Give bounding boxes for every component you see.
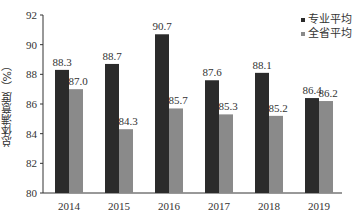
y-tick-label: 88 bbox=[26, 68, 38, 80]
bar bbox=[219, 114, 233, 193]
legend-label: 专业平均 bbox=[308, 13, 352, 27]
bar-value-label: 88.1 bbox=[252, 59, 271, 71]
bar bbox=[305, 98, 319, 193]
bar bbox=[319, 101, 333, 193]
x-tick-labels: 201420152016201720182019 bbox=[58, 200, 331, 212]
bar-value-label: 86.2 bbox=[318, 87, 337, 99]
bar bbox=[105, 64, 119, 193]
bars bbox=[55, 34, 333, 193]
bar bbox=[119, 129, 133, 193]
bar-value-label: 85.2 bbox=[268, 102, 287, 114]
axes bbox=[40, 15, 342, 193]
legend-item-province-average: 全省平均 bbox=[301, 27, 352, 41]
bar-value-label: 85.3 bbox=[218, 100, 238, 112]
x-tick-label: 2017 bbox=[208, 200, 231, 212]
data-labels: 88.387.088.784.390.785.787.685.388.185.2… bbox=[52, 20, 337, 127]
legend-swatch-icon bbox=[301, 32, 305, 36]
bar bbox=[269, 116, 283, 193]
bar bbox=[155, 34, 169, 193]
bar-value-label: 87.0 bbox=[68, 75, 88, 87]
x-tick-label: 2019 bbox=[308, 200, 331, 212]
bar-value-label: 88.7 bbox=[102, 50, 122, 62]
x-tick-label: 2014 bbox=[58, 200, 81, 212]
y-tick-label: 86 bbox=[26, 98, 38, 110]
bar bbox=[55, 70, 69, 193]
bar bbox=[69, 89, 83, 193]
bar-value-label: 85.7 bbox=[168, 94, 188, 106]
y-tick-label: 90 bbox=[26, 39, 38, 51]
bar bbox=[255, 73, 269, 193]
bar-value-label: 90.7 bbox=[152, 20, 172, 32]
bar-value-label: 84.3 bbox=[118, 115, 138, 127]
legend: 专业平均 全省平均 bbox=[301, 13, 352, 41]
y-tick-label: 84 bbox=[26, 128, 38, 140]
y-axis-label: 总体满意度（%） bbox=[2, 60, 18, 147]
y-tick-label: 80 bbox=[26, 187, 38, 199]
y-tick-labels: 80828486889092 bbox=[26, 9, 38, 199]
bar-value-label: 88.3 bbox=[52, 56, 72, 68]
bar bbox=[205, 80, 219, 193]
y-tick-label: 92 bbox=[26, 9, 37, 21]
legend-label: 全省平均 bbox=[308, 27, 352, 41]
bar-value-label: 87.6 bbox=[202, 66, 222, 78]
legend-item-major-average: 专业平均 bbox=[301, 13, 352, 27]
legend-swatch-icon bbox=[301, 18, 305, 22]
x-tick-label: 2018 bbox=[258, 200, 281, 212]
x-tick-label: 2016 bbox=[158, 200, 181, 212]
y-tick-label: 82 bbox=[26, 157, 37, 169]
x-tick-label: 2015 bbox=[108, 200, 131, 212]
bar bbox=[169, 108, 183, 193]
